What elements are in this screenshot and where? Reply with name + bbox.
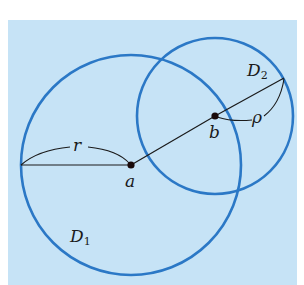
disk-d2-main: D <box>247 60 261 80</box>
diagram-canvas <box>0 0 304 285</box>
point-b-text: b <box>209 122 220 142</box>
radius-rho-text: ρ <box>252 107 262 127</box>
radius-r-label: r <box>73 137 81 154</box>
point-b-label: b <box>209 124 220 141</box>
radius-r-text: r <box>73 135 81 155</box>
radius-rho-label: ρ <box>252 109 262 126</box>
disk-d1-label: D1 <box>70 228 91 247</box>
point-a-label: a <box>125 173 135 190</box>
segment-a-b <box>131 116 215 165</box>
disk-d1-main: D <box>70 226 84 246</box>
disk-d1-subscript: 1 <box>84 235 91 248</box>
point-a-dot <box>127 161 134 168</box>
point-a-text: a <box>125 171 135 191</box>
point-b-dot <box>211 112 218 119</box>
radius-rho-segment <box>215 78 284 116</box>
disk-d2-label: D2 <box>247 62 268 81</box>
radius-rho-brace <box>217 79 284 121</box>
disk-d2-subscript: 2 <box>261 69 268 82</box>
